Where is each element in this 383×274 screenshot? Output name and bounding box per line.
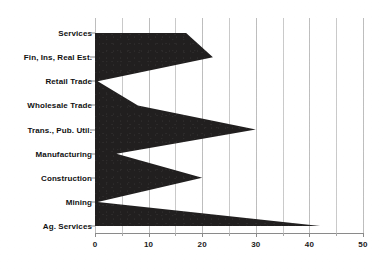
y-category-label-1: Fin, Ins, Real Est.	[24, 53, 92, 62]
x-tick-label-0: 0	[93, 240, 98, 249]
gridline-x-45	[336, 18, 337, 233]
x-tick-20	[202, 233, 203, 237]
y-tick-2	[90, 81, 95, 82]
y-category-label-3: Wholesale Trade	[27, 101, 92, 110]
x-tick-minor-25	[229, 233, 230, 236]
gridline-x-30	[256, 18, 257, 233]
x-tick-label-10: 10	[144, 240, 153, 249]
x-tick-0	[95, 233, 96, 237]
y-tick-8	[90, 226, 95, 227]
plot-area	[95, 18, 363, 233]
y-tick-0	[90, 33, 95, 34]
gridline-x-35	[283, 18, 284, 233]
gridline-x-20	[202, 18, 203, 233]
x-tick-label-20: 20	[198, 240, 207, 249]
gridline-x-40	[309, 18, 310, 233]
gridline-x-0	[95, 18, 96, 233]
chart-container: 01020304050 ServicesFin, Ins, Real Est.R…	[0, 0, 383, 274]
gridline-x-25	[229, 18, 230, 233]
y-tick-3	[90, 105, 95, 106]
y-category-label-6: Construction	[41, 173, 92, 182]
y-tick-6	[90, 177, 95, 178]
x-tick-40	[309, 233, 310, 237]
gridline-x-10	[149, 18, 150, 233]
x-tick-50	[363, 233, 364, 237]
x-tick-10	[149, 233, 150, 237]
y-tick-4	[90, 129, 95, 130]
y-category-label-7: Mining	[66, 197, 92, 206]
x-tick-label-30: 30	[251, 240, 260, 249]
x-tick-30	[256, 233, 257, 237]
x-tick-minor-45	[336, 233, 337, 236]
y-category-label-8: Ag. Services	[43, 222, 92, 231]
x-tick-label-40: 40	[305, 240, 314, 249]
y-tick-5	[90, 153, 95, 154]
gridline-x-15	[175, 18, 176, 233]
gridline-x-50	[363, 18, 364, 233]
x-tick-label-50: 50	[358, 240, 367, 249]
y-category-label-0: Services	[58, 29, 92, 38]
x-tick-minor-35	[283, 233, 284, 236]
y-tick-7	[90, 201, 95, 202]
y-tick-1	[90, 57, 95, 58]
gridline-x-5	[122, 18, 123, 233]
y-category-label-2: Retail Trade	[45, 77, 92, 86]
y-category-label-5: Manufacturing	[36, 149, 92, 158]
x-tick-minor-15	[175, 233, 176, 236]
y-category-label-4: Trans., Pub. Util.	[28, 125, 92, 134]
x-tick-minor-5	[122, 233, 123, 236]
